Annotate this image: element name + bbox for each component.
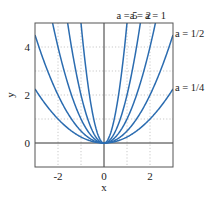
x-tick-label: -2 [53, 170, 62, 182]
y-tick-labels: 024 [25, 41, 31, 149]
x-tick-label: 2 [147, 170, 153, 182]
curve-label: a = 1/2 [175, 28, 204, 39]
y-tick-label: 0 [25, 137, 31, 149]
x-axis-label: x [101, 181, 107, 193]
y-axis-label: y [4, 92, 16, 98]
curve-label: a = 1 [145, 10, 166, 21]
y-tick-label: 2 [25, 89, 31, 101]
curve-label: a = 1/4 [175, 82, 205, 93]
parabola-chart: -202 024 x y a = 5a = 2a = 1a = 1/2a = 1… [0, 0, 216, 199]
y-tick-label: 4 [25, 41, 31, 53]
